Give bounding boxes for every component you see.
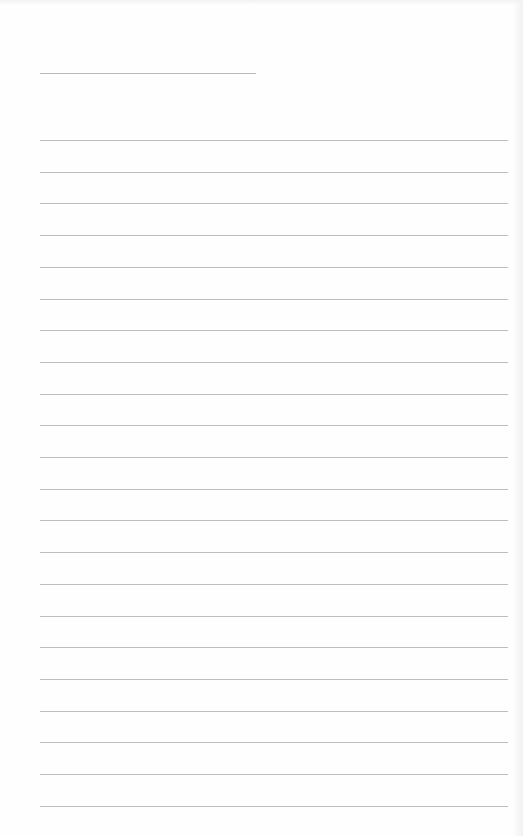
ruled-line — [40, 806, 508, 807]
ruled-line — [40, 584, 508, 585]
ruled-line — [40, 299, 508, 300]
ruled-line — [40, 394, 508, 395]
ruled-line — [40, 330, 508, 331]
ruled-line — [40, 552, 508, 553]
ruled-line — [40, 647, 508, 648]
ruled-line — [40, 425, 508, 426]
ruled-line — [40, 742, 508, 743]
ruled-line — [40, 172, 508, 173]
ruled-line — [40, 235, 508, 236]
scan-edge-right — [513, 0, 523, 836]
ruled-line — [40, 679, 508, 680]
ruled-line — [40, 457, 508, 458]
ruled-line — [40, 203, 508, 204]
ruled-line — [40, 774, 508, 775]
lined-paper-page — [0, 0, 523, 836]
scan-edge-top — [0, 0, 523, 5]
ruled-line — [40, 489, 508, 490]
ruled-line — [40, 616, 508, 617]
ruled-line — [40, 362, 508, 363]
ruled-line — [40, 140, 508, 141]
title-underline — [40, 73, 256, 74]
ruled-line — [40, 520, 508, 521]
ruled-line — [40, 711, 508, 712]
ruled-line — [40, 267, 508, 268]
